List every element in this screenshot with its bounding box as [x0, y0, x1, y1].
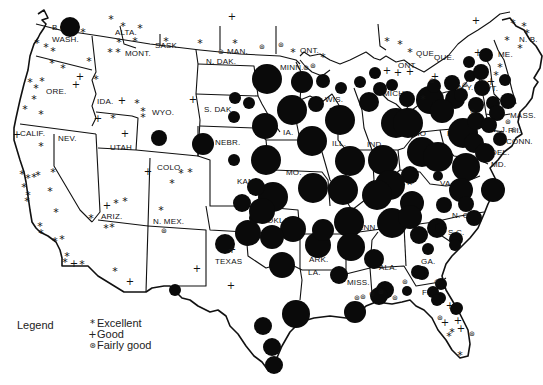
asterisk-icon: *: [232, 37, 238, 50]
state-label: GA.: [421, 257, 435, 266]
asterisk-icon: *: [38, 108, 44, 121]
plus-icon: +: [228, 11, 236, 22]
data-circle: [499, 74, 511, 86]
data-circle: [308, 96, 324, 112]
state-label: ONT.: [300, 46, 319, 55]
asterisk-icon: *: [457, 349, 463, 362]
data-circle: [282, 300, 310, 328]
data-circle: [466, 210, 482, 226]
data-circle: [335, 82, 347, 94]
data-circle: [243, 97, 255, 109]
legend-label: Fairly good: [97, 340, 151, 351]
plus-icon: +: [457, 323, 465, 334]
data-circle: [458, 196, 474, 212]
us-map: B.C.WASH.ALTA.SASK.MONT.MAN.ONT.N. DAK.M…: [0, 0, 543, 385]
state-label: ARIZ.: [101, 212, 122, 221]
state-label: WIS.: [325, 95, 343, 104]
data-circle: [247, 178, 265, 196]
data-circle: [410, 226, 428, 244]
data-circle: [452, 153, 480, 181]
data-circle: [269, 252, 295, 278]
asterisk-icon: *: [43, 41, 49, 54]
plus-icon: +: [406, 66, 414, 77]
state-label: WYO.: [152, 108, 174, 117]
state-label: MONT.: [125, 49, 151, 58]
data-circle: [328, 175, 358, 205]
asterisk-icon: *: [38, 227, 44, 240]
asterisk-icon: *: [110, 112, 116, 125]
data-circle: [297, 126, 327, 156]
data-circle: [252, 64, 282, 94]
asterisk-icon: *: [50, 166, 56, 179]
asterisk-icon: *: [86, 55, 92, 68]
asterisk-icon: *: [510, 17, 516, 30]
data-circle: [481, 178, 505, 202]
asterisk-icon: *: [178, 167, 184, 180]
asterisk-icon: *: [384, 35, 390, 48]
plus-icon: +: [227, 280, 235, 291]
state-label: CONN.: [506, 137, 533, 146]
asterisk-icon: *: [504, 34, 510, 47]
data-circle: [192, 133, 214, 155]
data-circle: [334, 207, 364, 237]
state-label: MO.: [286, 168, 302, 177]
data-circle: [386, 79, 398, 91]
asterisk-icon: *: [197, 37, 203, 50]
circled-asterisk-icon: ⊛: [511, 126, 517, 134]
plus-icon: +: [13, 129, 21, 140]
circled-asterisk-icon: ⊛: [429, 77, 435, 85]
data-circle: [454, 88, 468, 102]
circled-asterisk-icon: ⊛: [360, 293, 366, 301]
data-circle: [298, 173, 328, 203]
asterisk-icon: *: [107, 46, 113, 59]
data-circle: [228, 154, 240, 166]
data-circle: [444, 75, 460, 91]
circled-asterisk-icon: ⊛: [88, 340, 97, 351]
asterisk-icon: *: [140, 111, 146, 124]
data-circle: [169, 284, 181, 296]
legend-title: Legend: [17, 319, 54, 331]
data-circle: [435, 223, 445, 233]
state-label: LA.: [308, 268, 321, 277]
circled-asterisk-icon: ⊛: [310, 62, 316, 70]
data-circle: [312, 219, 334, 241]
asterisk-icon: *: [52, 235, 58, 248]
data-circle: [354, 76, 366, 88]
circled-asterisk-icon: ⊛: [278, 41, 284, 49]
state-label: QUE.: [416, 49, 436, 58]
circled-asterisk-icon: ⊛: [505, 118, 511, 126]
plus-icon: +: [103, 200, 111, 211]
plus-icon: +: [472, 15, 480, 26]
data-circle: [398, 205, 422, 229]
circled-asterisk-icon: ⊛: [469, 330, 475, 338]
asterisk-icon: *: [517, 42, 523, 55]
asterisk-icon: *: [122, 195, 128, 208]
state-label: ME.: [498, 50, 513, 59]
asterisk-icon: *: [109, 221, 115, 234]
plus-icon: +: [88, 329, 97, 340]
data-circle: [60, 17, 80, 37]
plus-icon: +: [394, 67, 402, 78]
circled-asterisk-icon: ⊛: [161, 227, 167, 235]
data-circle: [449, 239, 461, 251]
plus-icon: +: [126, 276, 134, 287]
data-circle: [430, 99, 454, 123]
data-circle: [337, 233, 365, 261]
state-label: ORE.: [46, 87, 66, 96]
asterisk-icon: *: [137, 22, 143, 35]
data-circle: [291, 71, 313, 93]
asterisk-icon: *: [115, 46, 121, 59]
asterisk-icon: *: [34, 37, 40, 50]
circled-asterisk-icon: ⊛: [434, 278, 440, 286]
state-label: TEXAS: [215, 257, 242, 266]
data-circle: [422, 243, 434, 255]
asterisk-icon: *: [93, 73, 99, 86]
data-circle: [393, 108, 423, 138]
state-label: MISS.: [347, 278, 370, 287]
data-circle: [344, 301, 366, 323]
data-circle: [423, 142, 453, 172]
state-label: IDA.: [97, 97, 113, 106]
state-label: N. MEX.: [153, 217, 184, 226]
asterisk-icon: *: [449, 326, 455, 339]
plus-icon: +: [487, 76, 495, 87]
